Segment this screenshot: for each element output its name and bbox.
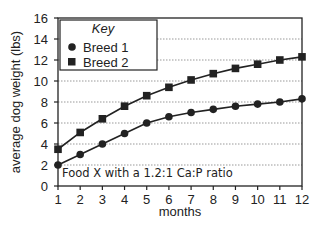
y-tick-label: 14	[34, 32, 48, 47]
y-tick-label: 12	[34, 53, 48, 68]
x-tick-label: 12	[295, 192, 309, 207]
square-marker-icon	[187, 76, 195, 84]
circle-marker-icon	[254, 100, 262, 108]
legend-label-breed-2: Breed 2	[83, 55, 129, 70]
legend-label-breed-1: Breed 1	[83, 40, 129, 55]
circle-marker-icon	[143, 119, 151, 127]
circle-marker-icon	[298, 95, 306, 103]
circle-marker-icon	[54, 161, 62, 169]
chart: 0246810121416 123456789101112 Key Breed …	[0, 0, 325, 237]
square-marker-icon	[76, 129, 84, 137]
y-tick-label: 10	[34, 74, 48, 89]
x-tick-label: 1	[54, 192, 61, 207]
square-marker-icon	[121, 102, 129, 110]
series-breed-1	[54, 95, 306, 169]
circle-marker-icon	[99, 140, 107, 148]
series-line	[58, 99, 302, 165]
x-tick-label: 2	[77, 192, 84, 207]
y-tick-label: 16	[34, 11, 48, 26]
y-tick-label: 4	[41, 137, 48, 152]
square-marker-icon	[232, 65, 240, 73]
annotation: Food X with a 1.2:1 Ca:P ratio	[62, 166, 233, 180]
square-marker-icon	[143, 92, 151, 100]
circle-marker-icon	[121, 130, 129, 138]
circle-marker-icon	[76, 151, 84, 159]
x-tick-label: 4	[121, 192, 128, 207]
x-tick-label: 5	[143, 192, 150, 207]
y-tick-label: 6	[41, 116, 48, 131]
x-tick-label: 11	[273, 192, 287, 207]
y-axis-label: average dog weight (lbs)	[8, 31, 23, 173]
circle-marker-icon	[165, 113, 173, 121]
square-marker-icon	[68, 58, 76, 66]
x-tick-label: 8	[210, 192, 217, 207]
square-marker-icon	[276, 56, 284, 64]
x-tick-label: 9	[232, 192, 239, 207]
y-tick-label: 8	[41, 95, 48, 110]
circle-marker-icon	[276, 98, 284, 106]
square-marker-icon	[99, 115, 107, 123]
circle-marker-icon	[232, 102, 240, 110]
square-marker-icon	[209, 70, 217, 78]
legend: Key Breed 1 Breed 2	[60, 20, 157, 70]
legend-title: Key	[92, 21, 116, 36]
x-tick-label: 3	[99, 192, 106, 207]
square-marker-icon	[254, 60, 262, 68]
circle-marker-icon	[68, 43, 76, 51]
y-tick-label: 2	[41, 158, 48, 173]
circle-marker-icon	[209, 106, 217, 114]
circle-marker-icon	[187, 109, 195, 117]
square-marker-icon	[54, 145, 62, 153]
x-axis-label: months	[159, 204, 202, 219]
y-tick-label: 0	[41, 179, 48, 194]
x-tick-label: 10	[250, 192, 264, 207]
square-marker-icon	[298, 53, 306, 61]
square-marker-icon	[165, 84, 173, 92]
y-axis-ticks: 0246810121416	[34, 11, 58, 194]
